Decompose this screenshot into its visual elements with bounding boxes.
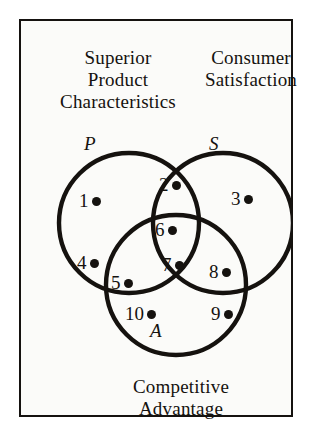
venn-point-dot-5 [124,279,133,288]
venn-point-label-7: 7 [162,254,172,276]
venn-point-dot-3 [244,195,253,204]
venn-point-label-8: 8 [209,261,219,283]
venn-point-1: 1 [79,190,101,212]
venn-point-dot-9 [224,310,233,319]
venn-point-label-4: 4 [77,252,87,274]
venn-point-dot-4 [90,259,99,268]
venn-point-label-5: 5 [111,272,121,294]
venn-point-10: 10 [125,303,156,325]
venn-point-label-6: 6 [155,219,165,241]
venn-point-6: 6 [155,219,177,241]
venn-diagram-page: Superior Product Characteristics Consume… [0,0,315,438]
venn-point-label-10: 10 [125,303,144,325]
venn-point-8: 8 [209,261,231,283]
venn-circles [19,19,293,417]
venn-point-label-1: 1 [79,190,89,212]
venn-point-label-9: 9 [211,303,221,325]
venn-point-7: 7 [162,254,184,276]
venn-point-2: 2 [159,174,181,196]
venn-point-dot-2 [172,181,181,190]
venn-point-dot-1 [92,197,101,206]
venn-point-4: 4 [77,252,99,274]
set-letter-p: P [84,133,96,155]
set-letter-s: S [209,133,219,155]
venn-point-9: 9 [211,303,233,325]
venn-point-dot-6 [168,226,177,235]
venn-point-label-3: 3 [231,188,241,210]
venn-point-dot-7 [175,261,184,270]
venn-point-5: 5 [111,272,133,294]
venn-point-dot-8 [222,268,231,277]
venn-point-3: 3 [231,188,253,210]
venn-point-label-2: 2 [159,174,169,196]
venn-point-dot-10 [147,310,156,319]
